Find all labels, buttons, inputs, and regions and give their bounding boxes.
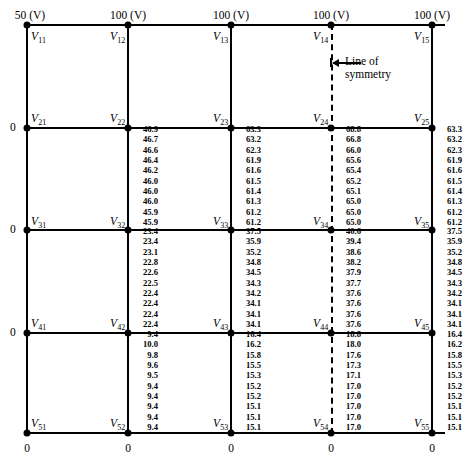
node-label-v32: V32 xyxy=(110,216,125,228)
iteration-value: 61.6 xyxy=(237,165,261,175)
iteration-values-v33: 37.535.935.234.834.534.334.234.134.134.1 xyxy=(237,226,261,329)
iteration-value: 15.1 xyxy=(438,422,462,432)
node-label-v31: V31 xyxy=(31,216,46,228)
iteration-value: 15.8 xyxy=(438,350,462,360)
iteration-value: 63.2 xyxy=(237,134,261,144)
iteration-value: 65.0 xyxy=(337,207,361,217)
iteration-value: 46.0 xyxy=(134,186,158,196)
node-v15[interactable] xyxy=(429,22,436,29)
iteration-value: 34.8 xyxy=(237,257,261,267)
node-v35[interactable] xyxy=(429,227,436,234)
left-boundary-value-row2: 0 xyxy=(10,122,16,134)
iteration-value: 23.4 xyxy=(134,236,158,246)
symmetry-label-line1: Line of xyxy=(345,55,391,68)
iteration-value: 17.0 xyxy=(337,381,361,391)
iteration-value: 63.3 xyxy=(237,124,261,134)
node-v52[interactable] xyxy=(125,430,132,437)
node-label-v25: V25 xyxy=(414,113,429,125)
node-v23[interactable] xyxy=(228,125,235,132)
node-v13[interactable] xyxy=(228,22,235,29)
node-label-v24: V24 xyxy=(313,113,328,125)
iteration-values-v22: 46.946.746.646.446.246.046.046.045.945.9 xyxy=(134,124,158,227)
iteration-value: 37.5 xyxy=(438,226,462,236)
node-v14[interactable] xyxy=(328,22,335,29)
node-v54[interactable] xyxy=(328,430,335,437)
node-v24[interactable] xyxy=(328,125,335,132)
iteration-value: 18.8 xyxy=(337,329,361,339)
iteration-value: 61.6 xyxy=(438,165,462,175)
node-v53[interactable] xyxy=(228,430,235,437)
iteration-value: 9.4 xyxy=(134,412,158,422)
node-v22[interactable] xyxy=(125,125,132,132)
node-label-v41: V41 xyxy=(31,318,46,330)
iteration-value: 16.4 xyxy=(237,329,261,339)
node-v45[interactable] xyxy=(429,330,436,337)
node-v51[interactable] xyxy=(24,430,31,437)
node-v25[interactable] xyxy=(429,125,436,132)
bottom-boundary-value-1: 0 xyxy=(24,443,30,455)
iteration-value: 46.7 xyxy=(134,134,158,144)
iteration-value: 10.0 xyxy=(134,339,158,349)
iteration-value: 15.2 xyxy=(237,391,261,401)
iteration-value: 37.6 xyxy=(337,319,361,329)
node-v43[interactable] xyxy=(228,330,235,337)
iteration-value: 46.4 xyxy=(134,155,158,165)
node-label-v52: V52 xyxy=(110,418,125,430)
iteration-value: 15.2 xyxy=(438,381,462,391)
bottom-boundary-value-3: 0 xyxy=(228,443,234,455)
iteration-value: 17.6 xyxy=(337,350,361,360)
iteration-value: 9.4 xyxy=(134,329,158,339)
node-v34[interactable] xyxy=(328,227,335,234)
iteration-value: 37.9 xyxy=(337,267,361,277)
top-boundary-label-1: 50 (V) xyxy=(15,10,45,22)
iteration-value: 46.6 xyxy=(134,145,158,155)
iteration-value: 34.1 xyxy=(438,319,462,329)
node-v42[interactable] xyxy=(125,330,132,337)
iteration-value: 18.0 xyxy=(337,339,361,349)
node-v11[interactable] xyxy=(24,22,31,29)
node-v21[interactable] xyxy=(24,125,31,132)
iteration-value: 37.6 xyxy=(337,309,361,319)
iteration-value: 34.1 xyxy=(237,309,261,319)
node-label-v15: V15 xyxy=(414,31,429,43)
iteration-value: 17.0 xyxy=(337,401,361,411)
iteration-value: 34.3 xyxy=(438,278,462,288)
node-v55[interactable] xyxy=(429,430,436,437)
node-v12[interactable] xyxy=(125,22,132,29)
iteration-value: 65.1 xyxy=(337,186,361,196)
iteration-value: 22.4 xyxy=(134,309,158,319)
node-label-v44: V44 xyxy=(313,318,328,330)
iteration-value: 9.4 xyxy=(134,391,158,401)
iteration-value: 40.6 xyxy=(337,226,361,236)
grid-hline-row5 xyxy=(27,432,445,434)
iteration-value: 9.6 xyxy=(134,360,158,370)
iteration-value: 63.2 xyxy=(438,134,462,144)
iteration-value: 17.1 xyxy=(337,370,361,380)
node-v41[interactable] xyxy=(24,330,31,337)
iteration-value: 65.0 xyxy=(337,196,361,206)
node-v31[interactable] xyxy=(24,227,31,234)
symmetry-label: Line of symmetry xyxy=(345,55,391,81)
top-boundary-label-3: 100 (V) xyxy=(213,10,249,22)
iteration-value: 61.4 xyxy=(438,186,462,196)
iteration-value: 65.4 xyxy=(337,165,361,175)
node-v33[interactable] xyxy=(228,227,235,234)
bottom-boundary-value-2: 0 xyxy=(125,443,131,455)
node-v44[interactable] xyxy=(328,330,335,337)
iteration-values-v42: 9.410.09.89.69.59.49.49.49.49.4 xyxy=(134,329,158,432)
iteration-value: 61.3 xyxy=(237,196,261,206)
top-boundary-label-4: 100 (V) xyxy=(313,10,349,22)
node-label-v55: V55 xyxy=(414,418,429,430)
node-v32[interactable] xyxy=(125,227,132,234)
node-label-v35: V35 xyxy=(414,216,429,228)
iteration-value: 16.4 xyxy=(438,329,462,339)
iteration-value: 15.1 xyxy=(438,401,462,411)
iteration-value: 22.4 xyxy=(134,319,158,329)
iteration-value: 35.2 xyxy=(237,247,261,257)
top-boundary-label-5: 100 (V) xyxy=(414,10,450,22)
iteration-value: 15.1 xyxy=(237,412,261,422)
iteration-value: 15.5 xyxy=(438,360,462,370)
iteration-values-v43: 16.416.215.815.515.315.215.215.115.115.1 xyxy=(237,329,261,432)
iteration-value: 35.2 xyxy=(438,247,462,257)
iteration-value: 34.1 xyxy=(237,319,261,329)
